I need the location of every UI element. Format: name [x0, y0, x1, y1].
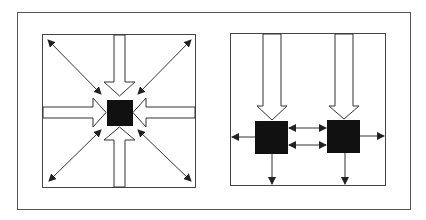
double-arrow-bottom-left — [49, 130, 101, 181]
diagram-canvas — [0, 0, 426, 220]
central-node — [107, 100, 133, 126]
hollow-arrow-node-1 — [257, 34, 287, 120]
node-1 — [255, 121, 288, 154]
node-2 — [327, 120, 360, 153]
hollow-arrow-left — [43, 98, 106, 127]
hollow-arrow-top — [104, 35, 135, 96]
left-panel — [43, 35, 196, 188]
right-panel-border — [231, 34, 386, 186]
double-arrow-top-left — [48, 40, 101, 94]
hollow-arrow-right — [133, 98, 195, 127]
double-arrow-top-right — [138, 40, 191, 94]
hollow-arrow-bottom — [104, 127, 135, 187]
double-arrow-bottom-right — [138, 130, 191, 181]
right-panel — [231, 34, 386, 186]
hollow-arrow-node-2 — [329, 34, 359, 119]
